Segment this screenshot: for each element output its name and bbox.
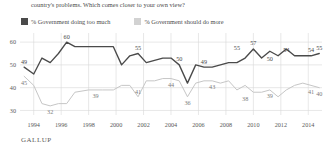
data-label: 44	[168, 81, 174, 88]
data-label: 55	[316, 44, 322, 51]
chart-subtitle: country's problems. Which comes closer t…	[31, 1, 323, 9]
x-axis-tick-label: 1996	[55, 121, 67, 128]
legend-item-should-do-more: % Government should do more	[134, 16, 223, 26]
data-label: 32	[47, 108, 53, 115]
data-label: 40	[316, 90, 322, 97]
x-axis-tick-label: 2004	[165, 121, 177, 128]
x-axis-tick-label: 2002	[137, 121, 149, 128]
y-axis-tick-label: 60	[10, 38, 16, 45]
data-label: 41	[308, 88, 314, 95]
data-label: 55	[234, 44, 240, 51]
data-label: 39	[267, 92, 273, 99]
x-axis-tick-labels: 1994199619982000200220042006200820102012…	[0, 121, 328, 133]
data-label: 38	[242, 95, 248, 102]
data-label: 50	[176, 55, 182, 62]
legend-item-too-much: % Government doing too much	[21, 16, 110, 26]
chart-root: country's problems. Which comes closer t…	[0, 0, 328, 151]
data-label: 60	[64, 33, 70, 40]
x-axis-tick-label: 2008	[220, 121, 232, 128]
data-label: 55	[135, 44, 141, 51]
x-axis-tick-label: 2006	[192, 121, 204, 128]
x-axis-tick-label: 2014	[302, 121, 314, 128]
x-axis-tick-label: 1998	[82, 121, 94, 128]
y-axis-tick-label: 40	[10, 84, 16, 91]
data-label: 49	[21, 58, 27, 65]
data-label: 36	[184, 99, 190, 106]
chart-legend: % Government doing too much % Government…	[21, 16, 223, 26]
x-axis-tick-label: 1994	[28, 121, 40, 128]
chart-plot-area: 3040506049605550495557505454554532394136…	[0, 29, 328, 121]
data-label: 54	[308, 46, 314, 53]
y-axis-tick-label: 30	[10, 107, 16, 114]
series-line--government-doing-too-much	[24, 42, 319, 83]
legend-label-too-much: % Government doing too much	[31, 18, 110, 25]
legend-swatch-icon-should-do-more	[134, 18, 141, 25]
data-label: 39	[92, 92, 98, 99]
source-label: GALLUP	[21, 136, 52, 144]
legend-label-should-do-more: % Government should do more	[144, 18, 223, 25]
data-label: 43	[209, 83, 215, 90]
data-label: 45	[21, 79, 27, 86]
chart-svg: 3040506049605550495557505454554532394136…	[0, 29, 328, 121]
legend-swatch-icon-too-much	[21, 18, 28, 25]
data-label: 57	[250, 39, 256, 46]
data-label: 41	[135, 88, 141, 95]
x-axis-tick-label: 2000	[110, 121, 122, 128]
x-axis-tick-label: 2010	[247, 121, 259, 128]
data-label: 50	[267, 55, 273, 62]
x-axis-tick-label: 2012	[275, 121, 287, 128]
y-axis-tick-label: 50	[10, 61, 16, 68]
data-label: 49	[201, 58, 207, 65]
data-label: 54	[283, 46, 289, 53]
